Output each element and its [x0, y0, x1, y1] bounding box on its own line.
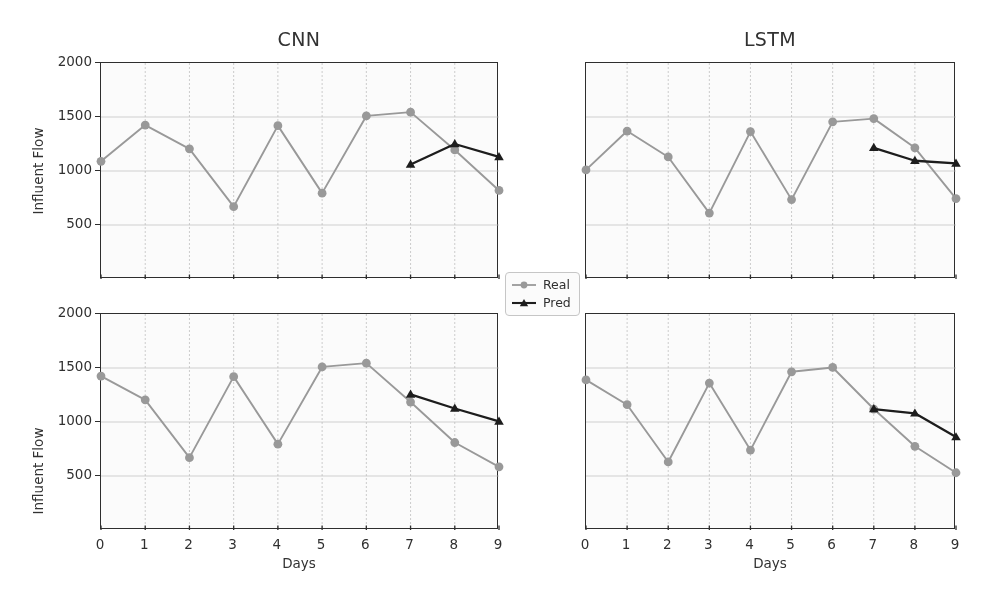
x-tick-label: 1	[611, 536, 641, 552]
panel-lstm-bottom: Days 0123456789	[510, 300, 983, 599]
plot-area-cnn-bottom	[100, 313, 498, 529]
y-tick-mark	[95, 62, 100, 63]
plot-svg-lstm-top	[586, 63, 956, 279]
legend-item-pred: Pred	[511, 295, 571, 311]
y-tick-label: 500	[42, 466, 92, 482]
y-tick-label: 1500	[42, 107, 92, 123]
plot-area-lstm-top	[585, 62, 955, 278]
x-tick-label: 7	[858, 536, 888, 552]
x-tick-label: 0	[85, 536, 115, 552]
x-tick-label: 9	[940, 536, 970, 552]
y-tick-mark	[95, 367, 100, 368]
x-tick-label: 6	[350, 536, 380, 552]
panel-title-lstm: LSTM	[585, 28, 955, 50]
panel-cnn-bottom: Influent Flow Days 500100015002000012345…	[0, 300, 510, 599]
y-tick-mark	[95, 116, 100, 117]
plot-area-lstm-bottom	[585, 313, 955, 529]
plot-svg-cnn-top	[101, 63, 499, 279]
x-tick-label: 3	[218, 536, 248, 552]
x-tick-label: 3	[693, 536, 723, 552]
panel-title-cnn: CNN	[100, 28, 498, 50]
legend-label-real: Real	[543, 277, 570, 293]
x-tick-label: 5	[306, 536, 336, 552]
x-tick-label: 7	[395, 536, 425, 552]
x-tick-label: 2	[173, 536, 203, 552]
y-tick-mark	[95, 475, 100, 476]
y-tick-mark	[95, 313, 100, 314]
x-tick-label: 9	[483, 536, 513, 552]
plot-area-cnn-top	[100, 62, 498, 278]
x-tick-label: 8	[899, 536, 929, 552]
x-tick-label: 5	[776, 536, 806, 552]
x-tick-label: 1	[129, 536, 159, 552]
y-tick-mark	[95, 421, 100, 422]
x-tick-label: 2	[652, 536, 682, 552]
y-tick-label: 1000	[42, 412, 92, 428]
plot-svg-cnn-bottom	[101, 314, 499, 530]
x-axis-label-lstm-bottom: Days	[585, 555, 955, 571]
legend: Real Pred	[505, 272, 580, 316]
y-tick-mark	[95, 170, 100, 171]
panel-lstm-top: LSTM	[510, 0, 983, 300]
y-tick-mark	[95, 224, 100, 225]
y-tick-label: 2000	[42, 53, 92, 69]
y-tick-label: 2000	[42, 304, 92, 320]
legend-swatch-real-icon	[511, 278, 537, 292]
legend-swatch-pred-icon	[511, 296, 537, 310]
y-tick-label: 500	[42, 215, 92, 231]
x-tick-label: 4	[262, 536, 292, 552]
panel-cnn-top: CNN Influent Flow 500100015002000	[0, 0, 510, 300]
legend-label-pred: Pred	[543, 295, 571, 311]
x-tick-label: 0	[570, 536, 600, 552]
y-tick-label: 1000	[42, 161, 92, 177]
figure-influent-flow-forecast: CNN Influent Flow 500100015002000 LSTM I…	[0, 0, 983, 599]
x-tick-label: 6	[817, 536, 847, 552]
x-axis-label-cnn-bottom: Days	[100, 555, 498, 571]
x-tick-label: 4	[734, 536, 764, 552]
legend-item-real: Real	[511, 277, 571, 293]
y-tick-label: 1500	[42, 358, 92, 374]
x-tick-label: 8	[439, 536, 469, 552]
plot-svg-lstm-bottom	[586, 314, 956, 530]
